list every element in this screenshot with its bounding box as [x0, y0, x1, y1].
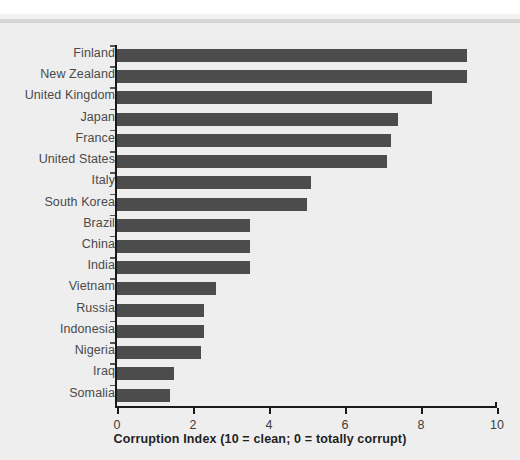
- bar-row: Finland: [117, 45, 497, 66]
- bar: [117, 346, 201, 359]
- x-axis-tick: [345, 408, 347, 414]
- x-axis-tick: [421, 408, 423, 414]
- category-label: Italy: [0, 173, 115, 187]
- x-axis-tick: [193, 408, 195, 414]
- bar: [117, 219, 250, 232]
- x-axis-tick: [269, 408, 271, 414]
- bar-row: Somalia: [117, 385, 497, 406]
- bar: [117, 304, 204, 317]
- category-label: Russia: [0, 301, 115, 315]
- category-label: United States: [0, 152, 115, 166]
- bar: [117, 282, 216, 295]
- x-axis-line: [117, 406, 497, 408]
- bar: [117, 70, 467, 83]
- x-axis-label: Corruption Index (10 = clean; 0 = totall…: [0, 432, 520, 446]
- y-axis-line: [115, 45, 117, 408]
- bar-row: New Zealand: [117, 66, 497, 87]
- category-label: South Korea: [0, 195, 115, 209]
- bar-row: France: [117, 130, 497, 151]
- bar-row: Indonesia: [117, 321, 497, 342]
- bar: [117, 367, 174, 380]
- bar: [117, 49, 467, 62]
- bar-row: Japan: [117, 109, 497, 130]
- x-axis-tick-label: 10: [477, 418, 517, 432]
- bar-row: Vietnam: [117, 278, 497, 299]
- bar-row: China: [117, 236, 497, 257]
- bar-row: United Kingdom: [117, 87, 497, 108]
- bar-row: Italy: [117, 172, 497, 193]
- bar: [117, 261, 250, 274]
- bar-row: South Korea: [117, 194, 497, 215]
- category-label: France: [0, 131, 115, 145]
- bar-row: Nigeria: [117, 342, 497, 363]
- category-label: Indonesia: [0, 322, 115, 336]
- x-axis-tick-label: 8: [401, 418, 441, 432]
- x-axis-tick-label: 2: [173, 418, 213, 432]
- plot-area: FinlandNew ZealandUnited KingdomJapanFra…: [117, 45, 497, 408]
- x-axis-tick-label: 0: [97, 418, 137, 432]
- bar: [117, 389, 170, 402]
- category-label: Nigeria: [0, 343, 115, 357]
- bar: [117, 198, 307, 211]
- bar-row: Brazil: [117, 215, 497, 236]
- bar: [117, 240, 250, 253]
- category-label: China: [0, 237, 115, 251]
- category-label: Brazil: [0, 216, 115, 230]
- x-axis-tick-label: 4: [249, 418, 289, 432]
- bar: [117, 113, 398, 126]
- bar: [117, 325, 204, 338]
- bar-rows: FinlandNew ZealandUnited KingdomJapanFra…: [117, 45, 497, 406]
- bar: [117, 176, 311, 189]
- bar-row: India: [117, 257, 497, 278]
- x-axis-tick: [497, 408, 499, 414]
- chart-figure: FinlandNew ZealandUnited KingdomJapanFra…: [0, 0, 520, 460]
- category-label: Iraq: [0, 364, 115, 378]
- bar-row: Russia: [117, 300, 497, 321]
- bar: [117, 134, 391, 147]
- bar: [117, 91, 432, 104]
- category-label: Finland: [0, 46, 115, 60]
- bar: [117, 155, 387, 168]
- chart-panel: FinlandNew ZealandUnited KingdomJapanFra…: [0, 23, 520, 460]
- bar-row: United States: [117, 151, 497, 172]
- category-label: United Kingdom: [0, 88, 115, 102]
- category-label: New Zealand: [0, 67, 115, 81]
- x-axis-tick-label: 6: [325, 418, 365, 432]
- category-label: India: [0, 258, 115, 272]
- category-label: Somalia: [0, 386, 115, 400]
- category-label: Japan: [0, 110, 115, 124]
- category-label: Vietnam: [0, 279, 115, 293]
- bar-row: Iraq: [117, 363, 497, 384]
- x-axis-tick: [117, 408, 119, 414]
